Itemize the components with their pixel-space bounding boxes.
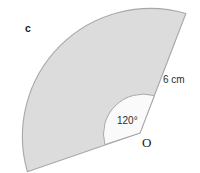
geometry-figure: c 120° O 6 cm <box>0 0 200 173</box>
part-label: c <box>25 22 31 34</box>
vertex-label: O <box>142 135 151 150</box>
angle-label: 120° <box>117 115 138 126</box>
radius-length-label: 6 cm <box>163 74 185 85</box>
sector-diagram-svg: c 120° O 6 cm <box>0 0 200 173</box>
